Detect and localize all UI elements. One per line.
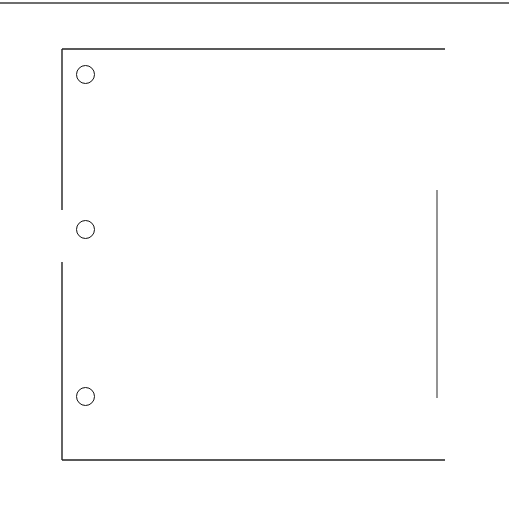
climate-proxy-figure — [0, 0, 509, 519]
plot-canvas — [0, 0, 509, 519]
